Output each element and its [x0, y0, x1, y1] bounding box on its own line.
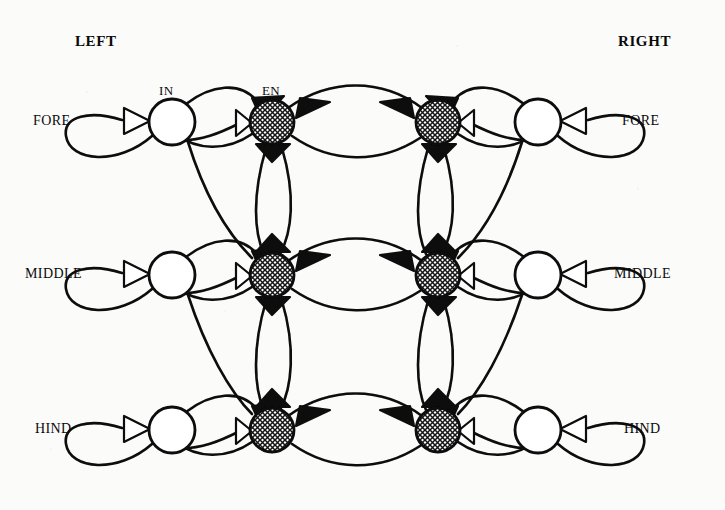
row-label-left-fore: FORE [33, 113, 70, 129]
row-label-right-middle: MIDDLE [614, 266, 671, 282]
side-label-left: LEFT [75, 33, 117, 50]
node-L-MIDDLE-EN[interactable] [250, 253, 294, 297]
node-L-FORE-EN[interactable] [250, 100, 294, 144]
node-R-FORE-EN[interactable] [416, 100, 460, 144]
row-label-right-fore: FORE [622, 113, 659, 129]
synapse-open-L-MIDDLE-IN-self [124, 261, 150, 287]
node-L-HIND-IN[interactable] [149, 407, 195, 453]
node-R-MIDDLE-IN[interactable] [515, 252, 561, 298]
edge-R-MIDDLE-IN-to-EN-upper [454, 241, 524, 257]
edge-L-FORE-EN-to-L-MIDDLE-EN-left [256, 148, 266, 254]
synapse-open-R-FORE-IN-self [560, 108, 586, 134]
synapse-filled-R-FORE-EN-upperright [380, 98, 414, 118]
edge-MIDDLE-EN-contra-lower [292, 289, 420, 310]
node-R-HIND-IN[interactable] [515, 407, 561, 453]
synapse-open-L-FORE-IN-self [124, 108, 150, 134]
edge-R-HIND-IN-to-EN-upper [454, 396, 524, 412]
node-R-FORE-IN[interactable] [515, 99, 561, 145]
diagram-canvas: LEFT RIGHT IN EN FORE MIDDLE HIND FORE M… [0, 0, 725, 510]
node-R-MIDDLE-EN[interactable] [416, 253, 460, 297]
node-L-MIDDLE-IN[interactable] [149, 252, 195, 298]
node-type-label-en: EN [262, 83, 280, 99]
synapse-open-R-MIDDLE-IN-self [560, 261, 586, 287]
node-R-HIND-EN[interactable] [416, 408, 460, 452]
node-L-FORE-IN[interactable] [149, 99, 195, 145]
edge-R-MIDDLE-EN-to-R-HIND-EN-left [418, 301, 428, 410]
edge-L-MIDDLE-EN-to-L-HIND-EN-left [256, 301, 266, 410]
edge-L-FORE-IN-to-EN-upper [186, 88, 256, 104]
synapse-open-L-HIND-IN-self [124, 416, 150, 442]
synapse-filled-L-HIND-EN-upperright [296, 406, 330, 426]
row-label-left-hind: HIND [35, 421, 72, 437]
edge-HIND-EN-contra-lower [292, 444, 420, 465]
node-layer [149, 99, 561, 453]
network-graph [0, 0, 725, 510]
edge-L-MIDDLE-EN-to-L-HIND-EN-right [280, 301, 291, 410]
row-label-right-hind: HIND [624, 421, 661, 437]
synapse-filled-L-MIDDLE-EN-upperright [296, 251, 330, 271]
row-label-left-middle: MIDDLE [25, 266, 82, 282]
side-label-right: RIGHT [618, 33, 671, 50]
synapse-filled-R-HIND-EN-upperright [380, 406, 414, 426]
edge-R-FORE-IN-to-EN-upper [454, 88, 524, 104]
edge-R-FORE-EN-to-R-MIDDLE-EN-left [418, 148, 428, 254]
node-L-HIND-EN[interactable] [250, 408, 294, 452]
edge-L-HIND-IN-to-EN-upper [186, 396, 256, 412]
edge-L-MIDDLE-IN-to-EN-upper [186, 241, 256, 257]
node-type-label-in: IN [159, 83, 173, 99]
synapse-open-R-HIND-IN-self [560, 416, 586, 442]
edge-FORE-EN-contra-lower [292, 136, 420, 157]
synapse-filled-L-FORE-EN-upperright [296, 98, 330, 118]
edge-L-FORE-EN-to-L-MIDDLE-EN-right [280, 148, 291, 254]
synapse-filled-R-MIDDLE-EN-upperright [380, 251, 414, 271]
